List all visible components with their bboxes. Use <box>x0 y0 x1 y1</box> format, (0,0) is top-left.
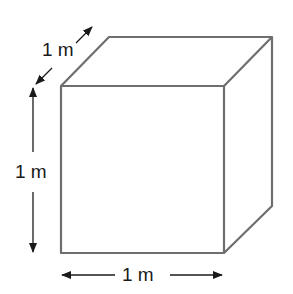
width-label: 1 m <box>122 265 154 285</box>
depth-label: 1 m <box>42 40 74 60</box>
depth-arrow-lower <box>36 68 52 84</box>
height-label: 1 m <box>15 162 47 182</box>
cube-right-face <box>224 37 272 253</box>
cube <box>61 37 272 253</box>
cube-front-face <box>61 86 224 253</box>
cube-top-face <box>61 37 272 86</box>
depth-arrow-upper <box>76 27 92 43</box>
